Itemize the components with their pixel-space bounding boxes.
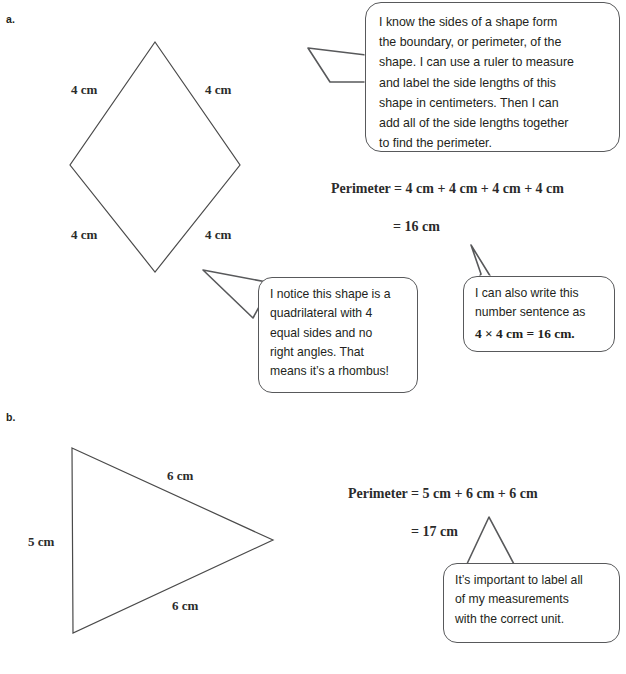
bubble-line: I can also write this — [475, 284, 603, 303]
perimeter-equation-b-line2: = 17 cm — [411, 524, 458, 540]
bubble-line: quadrilateral with 4 — [270, 304, 406, 323]
speech-tail-perimeter-explanation — [308, 48, 366, 82]
speech-tail-multiplication-sentence — [471, 245, 492, 279]
bubble-math-line: 4 × 4 cm = 16 cm. — [475, 323, 603, 344]
bubble-line: of my measurements — [455, 590, 608, 609]
bubble-line: It’s important to label all — [455, 571, 608, 590]
perimeter-equation-a-line1: Perimeter = 4 cm + 4 cm + 4 cm + 4 cm — [331, 181, 564, 197]
triangle-side-label-left: 5 cm — [28, 534, 54, 550]
bubble-line: equal sides and no — [270, 324, 406, 343]
part-label-a: a. — [6, 13, 15, 25]
bubble-line: means it’s a rhombus! — [270, 362, 406, 381]
rhombus-side-label-upper-right: 4 cm — [205, 82, 231, 98]
rhombus-side-label-lower-left: 4 cm — [71, 227, 97, 243]
bubble-line: add all of the side lengths together — [379, 113, 606, 133]
perimeter-equation-b-line1: Perimeter = 5 cm + 6 cm + 6 cm — [348, 486, 538, 502]
speech-bubble-label-units-reminder: It’s important to label all of my measur… — [443, 563, 620, 643]
bubble-line: and label the side lengths of this — [379, 73, 606, 93]
bubble-line: to find the perimeter. — [379, 133, 606, 153]
rhombus-side-label-lower-right: 4 cm — [205, 227, 231, 243]
rhombus-side-label-upper-left: 4 cm — [71, 82, 97, 98]
bubble-line: number sentence as — [475, 303, 603, 322]
bubble-line: with the correct unit. — [455, 610, 608, 629]
speech-bubble-rhombus-identification: I notice this shape is a quadrilateral w… — [258, 277, 418, 393]
speech-bubble-perimeter-explanation: I know the sides of a shape form the bou… — [365, 2, 620, 152]
bubble-line: shape in centimeters. Then I can — [379, 93, 606, 113]
bubble-line: shape. I can use a ruler to measure — [379, 52, 606, 72]
bubble-line: right angles. That — [270, 343, 406, 362]
bubble-line: I notice this shape is a — [270, 285, 406, 304]
triangle-side-label-lower-right: 6 cm — [172, 598, 198, 614]
perimeter-equation-a-line2: = 16 cm — [393, 219, 440, 235]
speech-bubble-multiplication-sentence: I can also write this number sentence as… — [463, 276, 615, 352]
part-label-b: b. — [6, 411, 16, 423]
bubble-line: I know the sides of a shape form — [379, 12, 606, 32]
speech-tail-label-units-reminder — [466, 517, 515, 566]
bubble-line: the boundary, or perimeter, of the — [379, 32, 606, 52]
triangle-side-label-upper-right: 6 cm — [167, 468, 193, 484]
worksheet-page: a. 4 cm 4 cm 4 cm 4 cm Perimeter = 4 cm … — [0, 0, 626, 674]
